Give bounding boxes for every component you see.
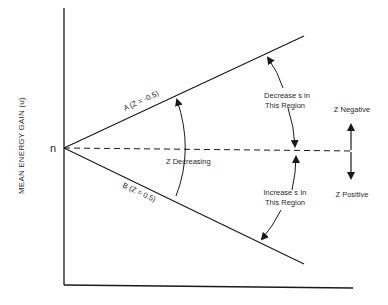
origin-label: n xyxy=(50,142,56,154)
lower-region-label-line2: This Region xyxy=(265,198,305,207)
energy-gain-diagram: MEAN ENERGY GAIN (u) n A (Z = -0.5) B (Z… xyxy=(0,0,388,305)
z-positive-label: Z Positive xyxy=(336,190,369,199)
lower-region-arrow-top xyxy=(292,157,296,190)
x-axis xyxy=(64,285,353,288)
z-decreasing-arrow xyxy=(176,100,185,196)
upper-region-label-line2: This Region xyxy=(265,101,305,110)
upper-region-arrow-top xyxy=(268,58,283,88)
line-a-label: A (Z = -0.5) xyxy=(122,89,160,113)
y-axis-label: MEAN ENERGY GAIN (u) xyxy=(17,97,26,194)
lower-region-label-line1: Increase s In xyxy=(264,188,307,197)
upper-region-label-line1: Decrease s in xyxy=(264,91,310,100)
lower-region-arrow-bottom xyxy=(262,210,281,239)
upper-region-arrow-bottom xyxy=(288,108,295,146)
dashed-reference-line xyxy=(64,148,354,151)
z-decreasing-label: Z Decreasing xyxy=(166,157,211,166)
z-negative-label: Z Negative xyxy=(334,105,370,114)
